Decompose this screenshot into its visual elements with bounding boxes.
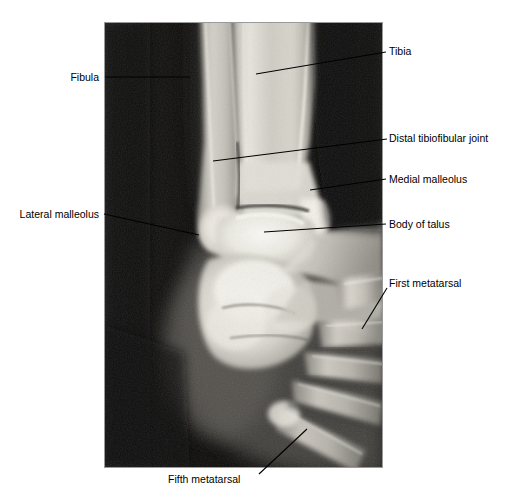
label-lateral-malleolus: Lateral malleolus	[20, 208, 99, 220]
xray-image	[104, 22, 383, 468]
label-tibia: Tibia	[389, 45, 411, 57]
label-first-metatarsal: First metatarsal	[389, 277, 461, 289]
label-fibula: Fibula	[70, 71, 99, 83]
label-body-of-talus: Body of talus	[389, 218, 450, 230]
label-distal-tibiofibular-joint: Distal tibiofibular joint	[389, 132, 488, 144]
label-medial-malleolus: Medial malleolus	[389, 173, 467, 185]
label-fifth-metatarsal: Fifth metatarsal	[168, 473, 240, 485]
annotated-radiograph-figure: Tibia Distal tibiofibular joint Medial m…	[0, 0, 510, 503]
xray-rendering	[104, 22, 383, 468]
